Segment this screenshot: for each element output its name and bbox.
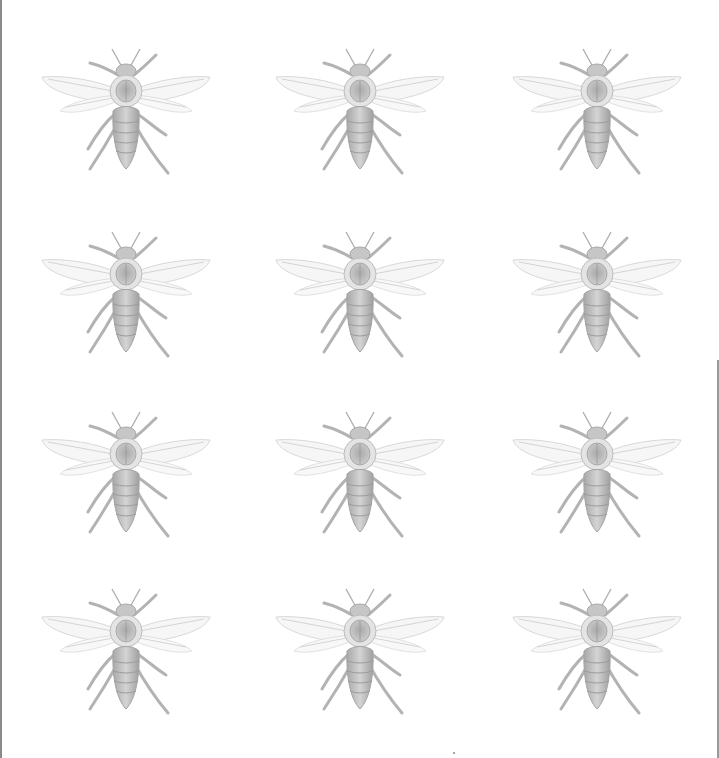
bee-icon <box>509 228 685 364</box>
bee-icon <box>272 228 448 364</box>
bee-icon <box>38 45 214 181</box>
bee-icon <box>509 45 685 181</box>
bee-icon <box>272 45 448 181</box>
left-page-edge <box>0 0 2 758</box>
bee-icon <box>509 585 685 721</box>
bee-icon <box>272 408 448 544</box>
bee-icon <box>38 585 214 721</box>
bee-icon <box>272 585 448 721</box>
bee-icon <box>509 408 685 544</box>
bee-icon <box>38 228 214 364</box>
bee-icon <box>38 408 214 544</box>
dust-speck <box>453 752 455 754</box>
